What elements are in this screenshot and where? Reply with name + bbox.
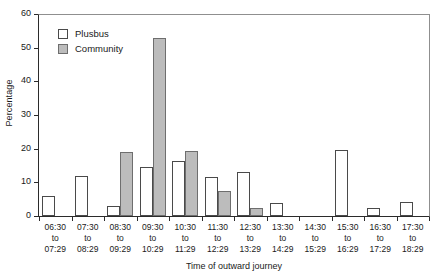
bar-plusbus <box>107 206 120 216</box>
legend-item: Community <box>58 41 123 56</box>
x-axis-label: 16:30to17:29 <box>364 222 397 255</box>
x-axis-tick-mark <box>72 217 73 221</box>
x-axis-label: 09:30to10:29 <box>137 222 170 255</box>
x-axis-label: 06:30to07:29 <box>39 222 72 255</box>
bar-plusbus <box>75 176 88 216</box>
y-axis-tick-label: 40 <box>21 75 31 85</box>
bar-plusbus <box>400 202 413 216</box>
x-axis-tick-mark <box>169 217 170 221</box>
x-axis-tick-mark <box>267 217 268 221</box>
bar-plusbus <box>172 161 185 216</box>
x-axis-label: 17:30to18:29 <box>397 222 430 255</box>
x-axis-label-line: 13:30 <box>267 222 300 233</box>
x-axis-label: 12:30to13:29 <box>234 222 267 255</box>
x-axis-label-line: 07:29 <box>39 244 72 255</box>
bar-community <box>250 208 263 216</box>
bar-community <box>153 38 166 216</box>
x-axis-label-line: 06:30 <box>39 222 72 233</box>
y-axis-tick-label: 60 <box>21 8 31 18</box>
legend: PlusbusCommunity <box>58 26 123 56</box>
bar-plusbus <box>237 172 250 216</box>
x-axis-label-line: to <box>39 233 72 244</box>
x-axis-tick-mark <box>299 217 300 221</box>
x-axis-label-line: 15:29 <box>299 244 332 255</box>
x-axis-label: 08:30to09:29 <box>104 222 137 255</box>
bar-plusbus <box>42 196 55 216</box>
x-axis-label-line: 12:30 <box>234 222 267 233</box>
legend-swatch-plusbus <box>58 29 68 39</box>
x-axis-label-line: to <box>397 233 430 244</box>
x-axis-label-line: 09:30 <box>137 222 170 233</box>
y-axis-tick-label: 10 <box>21 176 31 186</box>
x-axis-title-text: Time of outward journey <box>186 261 282 271</box>
y-axis-tick-label: 50 <box>21 42 31 52</box>
x-axis-label: 07:30to08:29 <box>72 222 105 255</box>
x-axis-tick-mark <box>364 217 365 221</box>
x-axis-label-line: to <box>267 233 300 244</box>
x-axis-label-line: 09:29 <box>104 244 137 255</box>
x-axis-label-line: to <box>169 233 202 244</box>
bar-group <box>397 14 430 216</box>
x-axis-label-line: to <box>104 233 137 244</box>
x-axis-tick-mark <box>332 217 333 221</box>
x-axis-label-line: 14:29 <box>267 244 300 255</box>
x-axis-label-line: 07:30 <box>72 222 105 233</box>
x-axis-label: 13:30to14:29 <box>267 222 300 255</box>
bar-group <box>364 14 397 216</box>
x-axis-tick-mark <box>429 217 430 221</box>
x-axis-label-line: 14:30 <box>299 222 332 233</box>
bar-plusbus <box>367 208 380 216</box>
x-axis-label-line: 10:29 <box>137 244 170 255</box>
x-axis-label-line: to <box>202 233 235 244</box>
y-axis-tick-label: 20 <box>21 143 31 153</box>
bar-group <box>332 14 365 216</box>
x-axis-tick-mark <box>234 217 235 221</box>
x-axis-label-line: 08:30 <box>104 222 137 233</box>
x-axis-label-line: to <box>137 233 170 244</box>
x-axis-label-line: 16:29 <box>332 244 365 255</box>
x-axis-label-line: 10:30 <box>169 222 202 233</box>
y-axis-tick-label: 0 <box>26 210 31 220</box>
bar-plusbus <box>140 167 153 216</box>
x-axis-tick-mark <box>39 217 40 221</box>
x-axis-label-line: 15:30 <box>332 222 365 233</box>
x-axis-label-line: 11:30 <box>202 222 235 233</box>
x-axis-label-line: to <box>299 233 332 244</box>
bar-plusbus <box>205 177 218 216</box>
bar-group <box>234 14 267 216</box>
x-axis-label: 10:30to11:29 <box>169 222 202 255</box>
legend-item: Plusbus <box>58 26 123 41</box>
x-axis-tick-mark <box>202 217 203 221</box>
x-axis-title: Time of outward journey <box>39 261 429 271</box>
x-axis-label-line: 11:29 <box>169 244 202 255</box>
bar-chart: Percentage 0102030405060 06:30to07:2907:… <box>0 0 439 280</box>
x-axis-label-line: 12:29 <box>202 244 235 255</box>
bar-community <box>218 191 231 216</box>
legend-swatch-community <box>58 44 68 54</box>
legend-label: Plusbus <box>75 28 109 39</box>
x-axis-label-line: 17:29 <box>364 244 397 255</box>
x-axis-label: 14:30to15:29 <box>299 222 332 255</box>
y-axis-ticks: 0102030405060 <box>0 14 38 217</box>
bar-plusbus <box>335 150 348 216</box>
bar-group <box>267 14 300 216</box>
x-axis-label: 11:30to12:29 <box>202 222 235 255</box>
x-axis-label-line: 18:29 <box>397 244 430 255</box>
x-axis-tick-mark <box>137 217 138 221</box>
legend-label: Community <box>75 43 123 54</box>
x-axis-label-line: to <box>72 233 105 244</box>
x-axis-label-line: 13:29 <box>234 244 267 255</box>
bar-group <box>137 14 170 216</box>
bar-plusbus <box>270 203 283 216</box>
x-axis-label: 15:30to16:29 <box>332 222 365 255</box>
bar-community <box>185 151 198 216</box>
x-axis-labels: 06:30to07:2907:30to08:2908:30to09:2909:3… <box>39 222 429 258</box>
x-axis-label-line: 17:30 <box>397 222 430 233</box>
x-axis-ticks <box>39 217 429 221</box>
y-axis-tick-label: 30 <box>21 109 31 119</box>
bar-group <box>299 14 332 216</box>
bar-group <box>202 14 235 216</box>
x-axis-label-line: to <box>234 233 267 244</box>
x-axis-label-line: to <box>332 233 365 244</box>
x-axis-label-line: 16:30 <box>364 222 397 233</box>
